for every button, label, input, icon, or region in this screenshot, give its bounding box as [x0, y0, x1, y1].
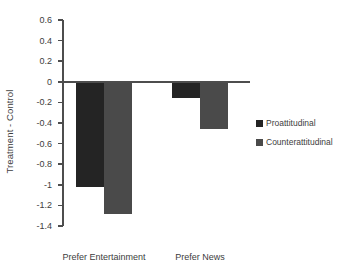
y-axis-tick-label: 0.2 [12, 56, 52, 66]
y-axis-tick [58, 60, 63, 62]
bar-proattitudinal [76, 82, 104, 187]
bar-proattitudinal [172, 82, 200, 98]
chart-legend: ProattitudinalCounterattitudinal [256, 118, 333, 147]
y-axis-tick [58, 163, 63, 165]
y-axis-tick-label: -0.2 [12, 97, 52, 107]
legend-item[interactable]: Counterattitudinal [256, 137, 333, 147]
y-axis-tick [58, 19, 63, 21]
legend-label: Counterattitudinal [266, 137, 333, 147]
legend-item[interactable]: Proattitudinal [256, 118, 333, 128]
y-axis-tick-label: -1.2 [12, 200, 52, 210]
bar-counterattitudinal [104, 82, 132, 214]
y-axis-tick-label: -0.6 [12, 139, 52, 149]
x-axis-label: Prefer News [175, 252, 225, 262]
y-axis-tick [58, 143, 63, 145]
y-axis-tick [58, 122, 63, 124]
y-axis-tick-label: -1.4 [12, 221, 52, 231]
y-axis-tick-label: 0.4 [12, 36, 52, 46]
zero-line [62, 81, 250, 83]
y-axis-tick-label: -0.8 [12, 159, 52, 169]
y-axis-tick [58, 225, 63, 227]
bar-counterattitudinal [200, 82, 228, 129]
y-axis-tick [58, 102, 63, 104]
y-axis-tick [58, 40, 63, 42]
x-axis-label: Prefer Entertainment [62, 252, 145, 262]
y-axis-tick [58, 205, 63, 207]
y-axis-tick-label: -0.4 [12, 118, 52, 128]
y-axis-tick-label: 0 [12, 77, 52, 87]
plot-area: 0.60.40.20-0.2-0.4-0.6-0.8-1-1.2-1.4 Pre… [62, 20, 250, 226]
y-axis-tick-label: 0.6 [12, 15, 52, 25]
legend-swatch-icon [256, 139, 263, 146]
bar-chart: Treatment - Control 0.60.40.20-0.2-0.4-0… [0, 0, 358, 262]
legend-swatch-icon [256, 120, 263, 127]
y-axis-tick [58, 184, 63, 186]
y-axis-tick-label: -1 [12, 180, 52, 190]
legend-label: Proattitudinal [266, 118, 316, 128]
